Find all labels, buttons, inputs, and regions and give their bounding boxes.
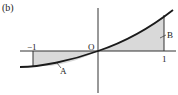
origin-label: O [88,42,95,52]
region-b-label: B [167,30,173,40]
panel-label: (b) [2,2,14,14]
region-b-shading [98,15,164,51]
graph: (b) O −1 1 A B [0,0,178,95]
region-a-label: A [60,66,67,76]
figure: (b) O −1 1 A B [0,0,178,95]
region-a-shading [33,51,98,66]
tick-label-pos-one: 1 [162,54,167,64]
tick-label-neg-one: −1 [27,42,37,52]
